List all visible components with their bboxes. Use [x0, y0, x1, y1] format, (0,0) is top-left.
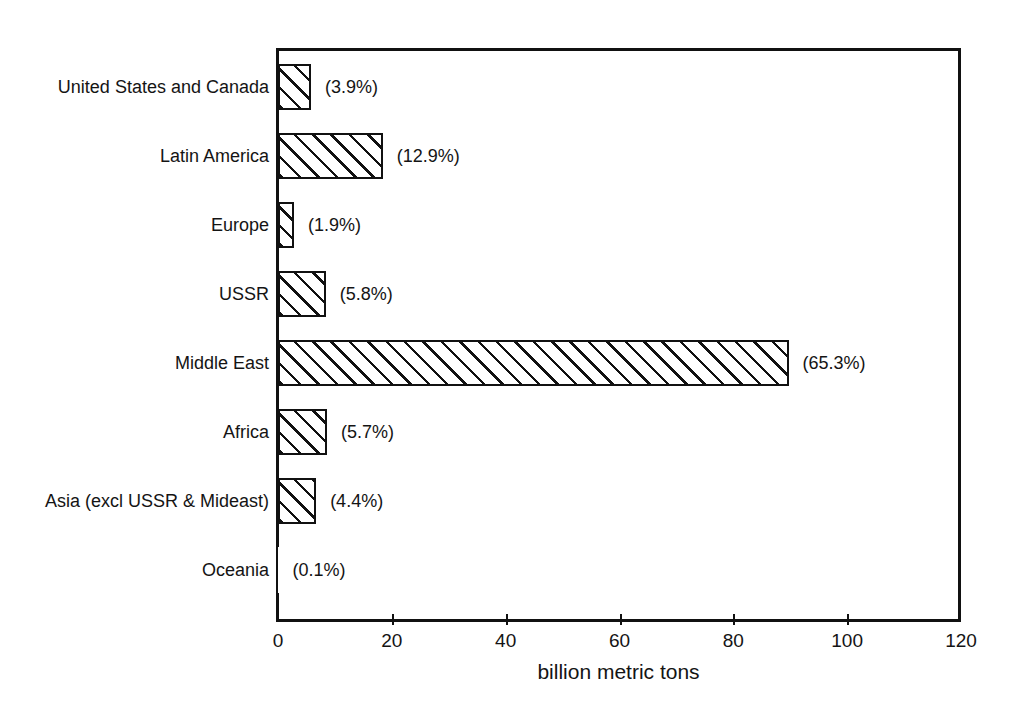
chart-page: United States and Canada(3.9%)Latin Amer… — [0, 0, 1009, 705]
category-label: Africa — [223, 421, 269, 442]
category-label: Middle East — [175, 352, 269, 373]
category-label: Latin America — [160, 145, 269, 166]
x-tick — [847, 614, 849, 625]
bar — [278, 133, 383, 179]
bar-value-label: (1.9%) — [308, 214, 361, 235]
bar — [278, 547, 279, 593]
x-tick-label: 60 — [609, 630, 630, 652]
bar-row: United States and Canada(3.9%) — [0, 52, 1009, 121]
bar-row: Oceania(0.1%) — [0, 535, 1009, 604]
bar — [278, 202, 294, 248]
bar-value-label: (0.1%) — [293, 559, 346, 580]
category-label: Oceania — [202, 559, 269, 580]
bar-row: Europe(1.9%) — [0, 190, 1009, 259]
bar — [278, 478, 316, 524]
x-tick — [392, 614, 394, 625]
x-axis-title: billion metric tons — [0, 660, 1009, 684]
bar-value-label: (12.9%) — [397, 145, 460, 166]
bar-value-label: (4.4%) — [330, 490, 383, 511]
bar-row: USSR(5.8%) — [0, 259, 1009, 328]
bar — [278, 64, 311, 110]
x-tick-label: 80 — [723, 630, 744, 652]
category-label: Asia (excl USSR & Mideast) — [45, 490, 269, 511]
bar — [278, 271, 326, 317]
bar-row: Latin America(12.9%) — [0, 121, 1009, 190]
category-label: USSR — [219, 283, 269, 304]
bar-value-label: (5.8%) — [340, 283, 393, 304]
bar-value-label: (65.3%) — [803, 352, 866, 373]
bar-value-label: (5.7%) — [341, 421, 394, 442]
category-label: United States and Canada — [58, 76, 269, 97]
x-tick — [620, 614, 622, 625]
bar-row: Middle East(65.3%) — [0, 328, 1009, 397]
x-axis-title-text: billion metric tons — [537, 660, 699, 683]
x-tick — [506, 614, 508, 625]
x-tick-label: 120 — [945, 630, 977, 652]
bar — [278, 409, 327, 455]
bar-value-label: (3.9%) — [325, 76, 378, 97]
category-label: Europe — [211, 214, 269, 235]
x-tick-label: 20 — [381, 630, 402, 652]
bar-row: Africa(5.7%) — [0, 397, 1009, 466]
x-tick-label: 0 — [273, 630, 284, 652]
x-tick-label: 100 — [831, 630, 863, 652]
bar — [278, 340, 789, 386]
bar-row: Asia (excl USSR & Mideast)(4.4%) — [0, 466, 1009, 535]
x-tick — [733, 614, 735, 625]
x-tick-label: 40 — [495, 630, 516, 652]
